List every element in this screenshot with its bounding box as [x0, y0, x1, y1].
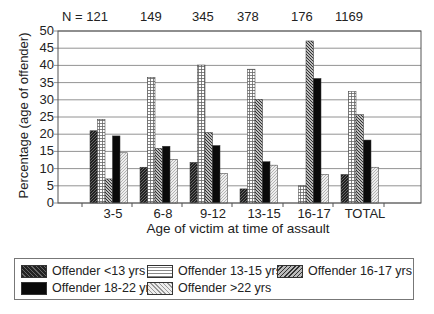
bar — [105, 179, 113, 203]
legend-swatch-icon — [277, 265, 303, 278]
legend-label: Offender 16-17 yrs — [308, 264, 412, 278]
bar — [356, 115, 364, 203]
bar — [299, 186, 307, 203]
bar — [205, 132, 213, 203]
x-tick-label: 9-12 — [188, 206, 238, 221]
legend-item: Offender 18-22 yrs — [21, 281, 156, 295]
x-tick-label: 6-8 — [138, 206, 188, 221]
bar — [163, 146, 171, 203]
bar — [321, 174, 329, 203]
bar — [120, 153, 128, 203]
bar — [263, 162, 271, 203]
bar — [240, 189, 248, 203]
bar — [220, 173, 228, 203]
bar — [98, 119, 106, 203]
legend-label: Offender >22 yrs — [178, 281, 271, 295]
bar — [90, 131, 98, 203]
legend-item: Offender 16-17 yrs — [277, 264, 412, 278]
bar — [113, 136, 121, 203]
bar — [148, 77, 156, 203]
legend-swatch-icon — [147, 265, 173, 278]
legend-swatch-icon — [147, 282, 173, 295]
x-tick-label: 13-15 — [239, 206, 289, 221]
bar — [371, 167, 379, 203]
legend-swatch-icon — [21, 282, 47, 295]
bar — [341, 174, 349, 203]
legend-label: Offender <13 yrs — [52, 264, 145, 278]
legend-label: Offender 13-15 yrs — [178, 264, 282, 278]
x-tick-label: 3-5 — [88, 206, 138, 221]
legend-swatch-icon — [21, 265, 47, 278]
legend-label: Offender 18-22 yrs — [52, 281, 156, 295]
bar — [248, 69, 256, 203]
x-axis-title: Age of victim at time of assault — [88, 221, 388, 236]
bar — [270, 165, 278, 203]
chart-legend: Offender <13 yrs Offender 13-15 yrs Offe… — [14, 258, 414, 300]
x-tick-label: 16-17 — [289, 206, 339, 221]
bar — [190, 162, 198, 203]
bar — [140, 167, 148, 203]
bar — [314, 78, 322, 203]
bar — [213, 146, 221, 203]
bar — [306, 41, 314, 203]
bar — [364, 140, 372, 203]
legend-item: Offender >22 yrs — [147, 281, 271, 295]
bar — [349, 92, 357, 203]
bar — [255, 99, 263, 203]
x-tick-label: TOTAL — [340, 206, 390, 221]
bar — [155, 148, 163, 203]
bar — [198, 65, 206, 203]
legend-item: Offender 13-15 yrs — [147, 264, 282, 278]
bar — [170, 159, 178, 203]
legend-item: Offender <13 yrs — [21, 264, 145, 278]
